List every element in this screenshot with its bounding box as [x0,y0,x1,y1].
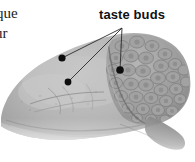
taste-bud-marker-lower-left [65,79,72,86]
tongue-anatomy-figure: que ur taste buds [0,0,195,162]
taste-buds-label: taste buds [99,7,165,22]
caption-fragment-line-1: que [0,6,18,21]
taste-bud-marker-right [116,66,124,74]
caption-fragment-line-2: ur [0,26,8,41]
taste-bud-marker-upper-left [58,54,65,61]
tongue-photograph [0,0,195,162]
